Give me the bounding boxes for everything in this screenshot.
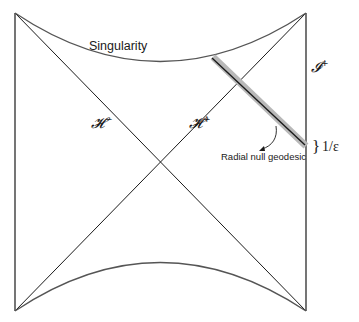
radial-null-geodesic [212, 58, 305, 145]
horizon-future-label: 𝓗+ [189, 114, 211, 132]
past-singularity-curve [15, 263, 306, 312]
geodesic-annotation-arrow [262, 126, 276, 149]
penrose-diagram: Singularity 𝓗− 𝓗+ 𝓘+ Radial null geodesi… [0, 0, 359, 322]
singularity-label: Singularity [89, 39, 148, 53]
horizon-past-label: 𝓗− [91, 114, 113, 132]
geodesic-label: Radial null geodesic [221, 151, 306, 162]
width-brace: } [312, 137, 320, 156]
future-singularity-curve [15, 13, 306, 62]
width-label: 1/ε [322, 139, 339, 154]
scri-plus-label: 𝓘+ [311, 58, 329, 76]
